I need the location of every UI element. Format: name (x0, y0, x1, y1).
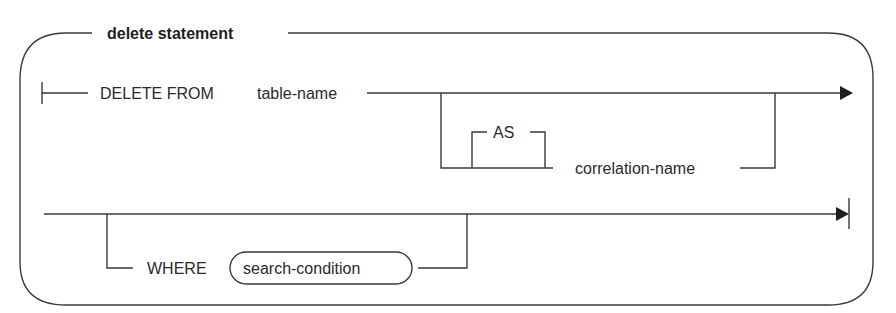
as-branch-right (530, 132, 545, 168)
delete-from-keyword: DELETE FROM (100, 85, 214, 102)
continue-arrow-icon (840, 86, 853, 100)
search-condition-label: search-condition (243, 260, 360, 277)
end-arrow-icon (836, 207, 849, 221)
as-keyword: AS (493, 124, 514, 141)
where-branch-left (107, 214, 133, 268)
diagram-title: delete statement (107, 25, 234, 42)
syntax-diagram: delete statement DELETE FROM table-name … (0, 0, 896, 313)
correlation-branch-right (740, 93, 775, 168)
correlation-name-label: correlation-name (575, 160, 695, 177)
where-branch-right (418, 214, 467, 268)
table-name-label: table-name (257, 85, 337, 102)
as-branch-left (472, 132, 487, 168)
where-keyword: WHERE (147, 260, 207, 277)
